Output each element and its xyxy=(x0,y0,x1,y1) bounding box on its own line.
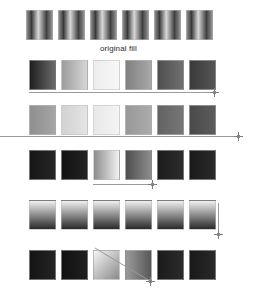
marker-dot xyxy=(217,233,220,236)
swatch-mid-4[interactable] xyxy=(125,105,152,135)
swatch-mid-5[interactable] xyxy=(157,105,184,135)
gradient-swatch-sheet: original fill xyxy=(0,0,255,294)
gradient-guide-line-row3[interactable] xyxy=(0,136,238,137)
gradient-guide-line-row4[interactable] xyxy=(93,184,153,185)
swatch-light-1[interactable] xyxy=(29,60,56,90)
swatch-vertical-4[interactable] xyxy=(125,200,152,230)
swatch-dark-3[interactable] xyxy=(93,150,120,180)
swatch-light-3[interactable] xyxy=(93,60,120,90)
gradient-handle-marker-row3[interactable] xyxy=(234,132,243,141)
swatch-original-6[interactable] xyxy=(186,10,213,40)
swatch-mid-3[interactable] xyxy=(93,105,120,135)
swatch-mid-6[interactable] xyxy=(189,105,216,135)
swatch-mid-1[interactable] xyxy=(29,105,56,135)
swatch-original-4[interactable] xyxy=(122,10,149,40)
marker-dot xyxy=(213,91,216,94)
marker-dot xyxy=(237,135,240,138)
marker-dot xyxy=(151,183,154,186)
swatch-vertical-2[interactable] xyxy=(61,200,88,230)
gradient-guide-line-row2[interactable] xyxy=(29,92,214,93)
swatch-light-4[interactable] xyxy=(125,60,152,90)
swatch-light-5[interactable] xyxy=(157,60,184,90)
swatch-dark-5[interactable] xyxy=(157,150,184,180)
swatch-dark-6[interactable] xyxy=(189,150,216,180)
swatch-mid-2[interactable] xyxy=(61,105,88,135)
swatch-original-3[interactable] xyxy=(90,10,117,40)
gradient-handle-marker-row6[interactable] xyxy=(146,277,155,286)
swatch-original-1[interactable] xyxy=(26,10,53,40)
swatch-dark-4[interactable] xyxy=(125,150,152,180)
swatch-original-5[interactable] xyxy=(154,10,181,40)
swatch-diagonal-3[interactable] xyxy=(93,250,120,280)
swatch-dark-2[interactable] xyxy=(61,150,88,180)
swatch-light-2[interactable] xyxy=(61,60,88,90)
swatch-strip-original-fill xyxy=(26,10,213,40)
swatch-strip-light-sweep xyxy=(29,60,216,90)
swatch-diagonal-1[interactable] xyxy=(29,250,56,280)
gradient-handle-marker-row4[interactable] xyxy=(148,180,157,189)
swatch-strip-dark-pair xyxy=(29,150,216,180)
marker-dot xyxy=(149,280,152,283)
swatch-vertical-3[interactable] xyxy=(93,200,120,230)
swatch-diagonal-2[interactable] xyxy=(61,250,88,280)
swatch-dark-1[interactable] xyxy=(29,150,56,180)
gradient-guide-line-row5[interactable] xyxy=(218,203,219,233)
swatch-light-6[interactable] xyxy=(189,60,216,90)
swatch-diagonal-5[interactable] xyxy=(157,250,184,280)
swatch-diagonal-4[interactable] xyxy=(125,250,152,280)
swatch-strip-vertical-sweep xyxy=(29,200,216,230)
swatch-vertical-6[interactable] xyxy=(189,200,216,230)
swatch-strip-mid-sweep xyxy=(29,105,216,135)
swatch-vertical-5[interactable] xyxy=(157,200,184,230)
caption-original-fill: original fill xyxy=(100,44,137,53)
gradient-handle-marker-row5[interactable] xyxy=(214,230,223,239)
swatch-vertical-1[interactable] xyxy=(29,200,56,230)
swatch-diagonal-6[interactable] xyxy=(189,250,216,280)
swatch-strip-diagonal-sweep xyxy=(29,250,216,280)
gradient-handle-marker-row2[interactable] xyxy=(210,88,219,97)
swatch-original-2[interactable] xyxy=(58,10,85,40)
